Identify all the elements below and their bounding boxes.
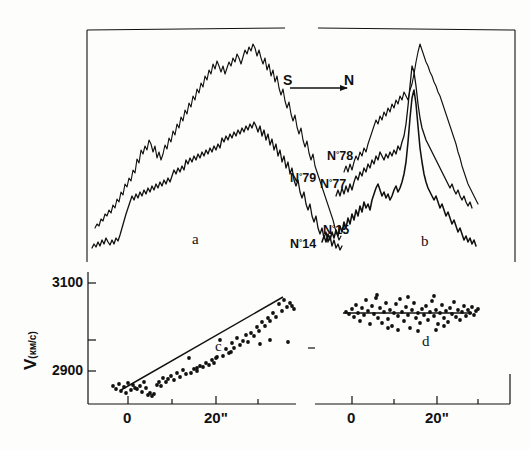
compass-south-label: S xyxy=(283,73,292,87)
trace-label-n77-number: 77 xyxy=(332,177,346,191)
x-axis-left-tick-20: 20" xyxy=(204,410,228,425)
panel-c-scatter-points xyxy=(111,298,296,398)
x-axis-right-tick-20: 20" xyxy=(425,410,449,425)
y-axis-label: V(км/с) xyxy=(22,331,39,370)
panel-d-axes xyxy=(308,348,510,404)
trace-label-n14-number: 14 xyxy=(302,237,316,251)
x-axis-left-tick-0: 0 xyxy=(123,410,131,425)
trace-label-n15: N°15 xyxy=(323,224,349,237)
trace-label-n78: N°78 xyxy=(327,150,353,163)
trace-label-n77: N°77 xyxy=(320,178,346,191)
figure-canvas xyxy=(0,0,530,450)
panel-letter-d: d xyxy=(422,334,430,349)
compass-north-label: N xyxy=(344,73,354,87)
x-axis-right-tick-0: 0 xyxy=(347,410,355,425)
panel-b-trace-n78 xyxy=(344,44,478,204)
trace-label-n15-prefix: N xyxy=(323,223,332,237)
panel-a-trace-n79 xyxy=(95,44,341,240)
trace-label-n14: N°14 xyxy=(290,238,316,251)
panel-letter-c: c xyxy=(215,339,222,354)
trace-label-n78-prefix: N xyxy=(327,149,336,163)
figure-root: S N N°79 N°14 N°78 N°77 N°15 a b c d 310… xyxy=(0,0,530,450)
panel-letter-a: a xyxy=(192,232,199,247)
y-axis-label-symbol: V xyxy=(21,359,40,370)
panel-letter-b: b xyxy=(421,234,429,249)
panel-a-trace-n14 xyxy=(92,122,342,250)
trace-label-n14-prefix: N xyxy=(290,237,299,251)
trace-label-n77-prefix: N xyxy=(320,177,329,191)
panel-a-frame xyxy=(87,28,285,262)
trace-label-n79: N°79 xyxy=(290,172,316,185)
trace-label-n79-number: 79 xyxy=(302,171,316,185)
trace-label-n15-number: 15 xyxy=(335,223,349,237)
y-axis-tick-2900: 2900 xyxy=(52,363,83,377)
panel-b-trace-n77 xyxy=(336,66,472,208)
trace-label-n79-prefix: N xyxy=(290,171,299,185)
y-axis-label-unit: (км/с) xyxy=(27,331,38,358)
trace-label-n78-number: 78 xyxy=(339,149,353,163)
y-axis-tick-3100: 3100 xyxy=(52,275,83,289)
